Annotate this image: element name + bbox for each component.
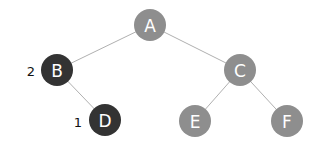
node-f-label: F — [282, 112, 292, 132]
node-a-label: A — [144, 16, 156, 36]
node-e: E — [179, 105, 211, 137]
node-d-label: D — [98, 111, 111, 131]
node-b-annotation: 2 — [27, 64, 35, 79]
node-c-label: C — [234, 61, 246, 81]
binary-tree-diagram: A B 2 C D 1 E F — [0, 0, 320, 147]
node-e-label: E — [190, 112, 201, 132]
node-a: A — [134, 9, 166, 41]
node-d-annotation: 1 — [74, 115, 82, 130]
node-b-label: B — [51, 61, 63, 81]
node-b: B 2 — [27, 54, 73, 86]
node-f: F — [271, 105, 303, 137]
node-c: C — [224, 54, 256, 86]
node-d: D 1 — [74, 104, 121, 136]
